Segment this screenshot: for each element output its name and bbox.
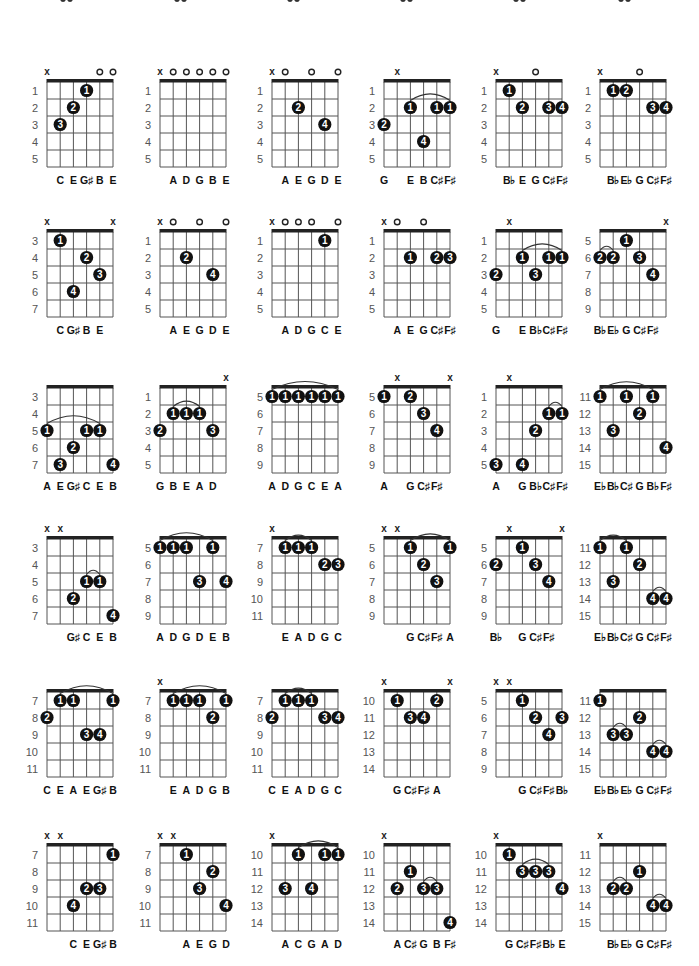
fret-number: 15 xyxy=(579,917,591,929)
finger-number: 3 xyxy=(520,866,526,877)
muted-string-icon: x xyxy=(170,830,176,841)
note-label: E xyxy=(407,324,414,336)
finger-number: 2 xyxy=(610,883,616,894)
fret-number: 3 xyxy=(585,119,591,131)
fret-number: 10 xyxy=(251,746,263,758)
finger-number: 1 xyxy=(184,408,190,419)
fret-number: 10 xyxy=(475,849,487,861)
note-label: E xyxy=(407,174,414,186)
chord-diagram: 12345x1234B♭EGC♯F♯ xyxy=(481,66,569,186)
note-label: A xyxy=(433,784,441,796)
note-label: E xyxy=(334,324,341,336)
finger-number: 3 xyxy=(97,269,103,280)
nut-bar xyxy=(47,536,114,540)
finger-number: 1 xyxy=(282,391,288,402)
fret-number: 1 xyxy=(481,391,487,403)
fret-number: 7 xyxy=(369,576,375,588)
fret-number: 9 xyxy=(145,883,151,895)
note-label: G xyxy=(308,324,316,336)
fret-number: 9 xyxy=(145,610,151,622)
fret-number: 5 xyxy=(585,153,591,165)
open-string-icon xyxy=(197,219,203,225)
note-label: D xyxy=(196,784,204,796)
barre-arc xyxy=(613,723,626,727)
note-label: B xyxy=(109,631,117,643)
finger-number: 1 xyxy=(381,391,387,402)
fret-number: 13 xyxy=(363,746,375,758)
nut-bar xyxy=(47,843,114,847)
finger-number: 2 xyxy=(520,102,526,113)
fret-number: 2 xyxy=(481,408,487,420)
barre-arc xyxy=(613,877,626,881)
nut-bar xyxy=(384,689,451,693)
note-label: C♯ xyxy=(542,174,556,186)
muted-string-icon: x xyxy=(447,676,453,687)
note-label: G xyxy=(406,631,414,643)
finger-number: 4 xyxy=(421,136,427,147)
fret-number: 9 xyxy=(481,763,487,775)
finger-number: 1 xyxy=(394,695,400,706)
fret-number: 4 xyxy=(481,136,487,148)
note-label: D xyxy=(308,784,316,796)
fret-number: 1 xyxy=(481,235,487,247)
finger-number: 1 xyxy=(434,102,440,113)
note-label: A xyxy=(393,938,401,950)
finger-number: 4 xyxy=(434,425,440,436)
finger-number: 1 xyxy=(447,102,453,113)
note-label: F♯ xyxy=(444,938,456,950)
note-label: E xyxy=(519,324,526,336)
finger-number: 1 xyxy=(157,542,163,553)
note-label: B♭ xyxy=(594,324,607,336)
nut-bar xyxy=(160,79,227,83)
barre-arc xyxy=(410,94,450,101)
fret-number: 3 xyxy=(481,269,487,281)
fret-number: 6 xyxy=(369,408,375,420)
open-string-icon xyxy=(97,69,103,75)
chord-diagram: 12345x1234B♭E♭GC♯F♯ xyxy=(585,66,673,186)
finger-number: 2 xyxy=(421,559,427,570)
note-label: F♯ xyxy=(556,480,568,492)
chord-diagram: 7891011x11121EADGB xyxy=(139,676,233,796)
fret-number: 5 xyxy=(257,153,263,165)
fret-number: 5 xyxy=(585,235,591,247)
nut-bar xyxy=(47,385,114,389)
fret-number: 9 xyxy=(32,883,38,895)
note-label: D xyxy=(308,631,316,643)
finger-number: 3 xyxy=(434,883,440,894)
finger-number: 1 xyxy=(624,391,630,402)
note-label: E xyxy=(196,938,203,950)
fret-number: 13 xyxy=(579,425,591,437)
nut-bar xyxy=(160,385,227,389)
finger-number: 1 xyxy=(322,235,328,246)
fret-number: 7 xyxy=(257,542,263,554)
nut-bar xyxy=(384,79,451,83)
fret-number: 12 xyxy=(475,883,487,895)
finger-number: 1 xyxy=(170,695,176,706)
note-label: E♭ xyxy=(607,324,619,336)
barre-arc xyxy=(653,587,666,591)
open-string-icon xyxy=(110,69,116,75)
finger-number: 3 xyxy=(546,102,552,113)
fret-number: 5 xyxy=(32,269,38,281)
note-label: E xyxy=(83,938,90,950)
fret-number: 4 xyxy=(481,286,487,298)
open-string-icon xyxy=(197,69,203,75)
fret-number: 3 xyxy=(369,119,375,131)
fret-number: 2 xyxy=(585,102,591,114)
finger-number: 3 xyxy=(447,252,453,263)
chord-diagram: 56789xx1234AGC♯F♯ xyxy=(369,372,453,492)
finger-number: 2 xyxy=(71,442,77,453)
finger-number: 1 xyxy=(170,542,176,553)
chord-diagram: 1011121314x21334AC♯GBF♯ xyxy=(363,830,457,950)
fret-number: 8 xyxy=(145,593,151,605)
chord-diagram: 7891011211341CEAEG♯B xyxy=(26,686,120,796)
finger-number: 2 xyxy=(381,119,387,130)
finger-number: 2 xyxy=(533,712,539,723)
note-label: B♭ xyxy=(529,324,542,336)
note-label: A xyxy=(295,631,303,643)
finger-number: 1 xyxy=(408,102,414,113)
finger-number: 1 xyxy=(282,542,288,553)
chord-diagram: 34567xx1234CG♯BE xyxy=(32,216,116,336)
note-label: A xyxy=(334,480,342,492)
fret-number: 15 xyxy=(579,610,591,622)
